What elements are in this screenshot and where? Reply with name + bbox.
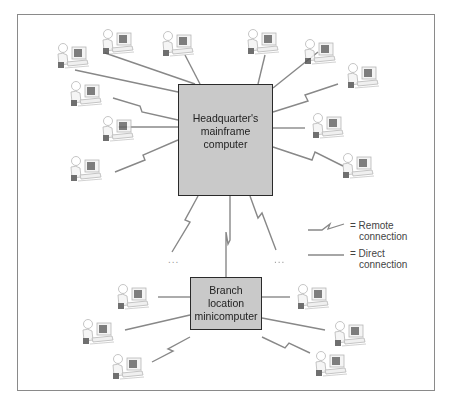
network-diagram bbox=[0, 0, 449, 403]
terminal-icon bbox=[335, 322, 366, 347]
terminal-icon bbox=[71, 157, 102, 182]
remote-connection-line bbox=[273, 147, 343, 166]
legend-remote-sublabel: connection bbox=[350, 231, 407, 242]
zigzag-line-icon bbox=[306, 222, 346, 232]
ellipsis-right: ... bbox=[274, 254, 285, 265]
legend-remote-label: = Remote bbox=[350, 220, 407, 231]
remote-connection-line bbox=[113, 98, 178, 120]
hq-label-line2: mainframe bbox=[201, 125, 251, 138]
hq-branch-connection-line bbox=[226, 196, 230, 277]
remote-connection-line bbox=[262, 337, 310, 353]
direct-connection-line bbox=[185, 55, 200, 84]
terminal-icon bbox=[163, 32, 194, 57]
terminal-icon bbox=[248, 30, 279, 55]
terminal-icon bbox=[83, 320, 114, 345]
terminal-icon bbox=[305, 40, 336, 65]
direct-connection-line bbox=[125, 315, 190, 330]
terminal-icon bbox=[103, 30, 134, 55]
remote-connection-line bbox=[115, 140, 178, 172]
terminal-icon bbox=[343, 154, 374, 179]
direct-connection-line bbox=[262, 318, 325, 330]
terminal-icon bbox=[58, 44, 89, 69]
terminal-icon bbox=[103, 117, 134, 142]
hq-label-line3: computer bbox=[204, 138, 248, 151]
legend-direct-sublabel: connection bbox=[350, 259, 407, 270]
legend-direct-label: = Direct bbox=[350, 248, 407, 259]
terminal-icon bbox=[71, 82, 102, 107]
terminal-icon bbox=[118, 285, 149, 310]
terminal-icon bbox=[316, 352, 347, 377]
remote-connection-line bbox=[250, 196, 276, 250]
branch-label-line3: minicomputer bbox=[194, 310, 257, 323]
remote-connection-line bbox=[152, 337, 190, 362]
ellipsis-left: ... bbox=[168, 254, 179, 265]
straight-line-icon bbox=[306, 250, 346, 260]
remote-connection-line bbox=[273, 84, 338, 112]
terminal-icon bbox=[313, 114, 344, 139]
terminal-icon bbox=[348, 64, 379, 89]
branch-label-line2: location bbox=[208, 297, 244, 310]
terminal-icon bbox=[298, 285, 329, 310]
branch-minicomputer-node: Branch location minicomputer bbox=[190, 277, 262, 330]
hq-label-line1: Headquarter's bbox=[193, 112, 259, 125]
remote-connection-line bbox=[172, 196, 198, 252]
direct-connection-line bbox=[258, 55, 265, 84]
branch-label-line1: Branch bbox=[209, 284, 242, 297]
terminal-icon bbox=[113, 355, 144, 380]
headquarters-mainframe-node: Headquarter's mainframe computer bbox=[178, 84, 273, 196]
